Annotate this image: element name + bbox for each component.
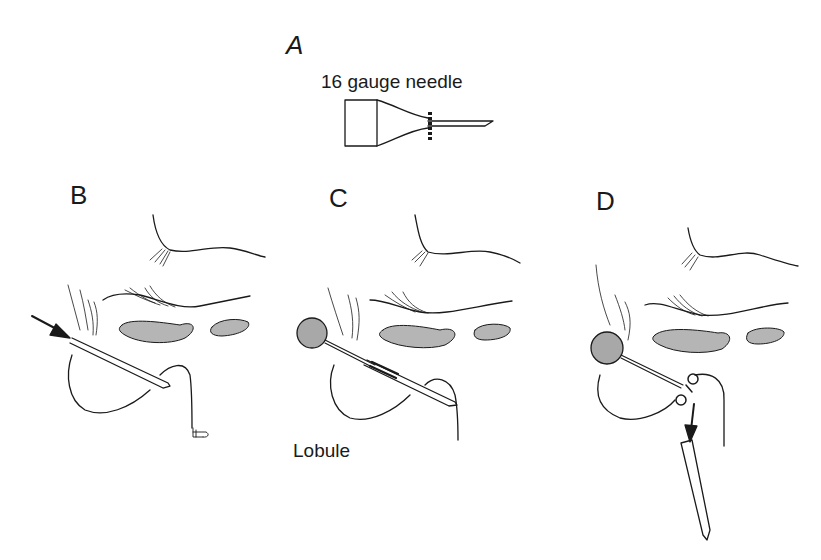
probe-ball	[297, 318, 327, 348]
needle-hub	[345, 100, 377, 146]
ring-icon	[676, 395, 686, 405]
probe-ball	[591, 332, 623, 364]
probe-wire	[325, 340, 375, 368]
needle-tube	[364, 360, 457, 406]
panel-b-ear	[32, 215, 265, 437]
panel-c-ear	[297, 215, 520, 440]
removed-needle	[681, 440, 710, 540]
artist-signature	[193, 428, 208, 437]
ring-icon	[688, 374, 698, 384]
needle-tube	[70, 338, 170, 388]
needle-hub-taper	[377, 100, 428, 146]
needle-shaft	[428, 121, 493, 126]
panel-d-ear	[591, 228, 798, 540]
probe-wire	[621, 355, 683, 388]
needle-diagram	[345, 100, 493, 146]
figure-drawing	[0, 0, 821, 560]
arrow-down-icon	[685, 425, 697, 442]
